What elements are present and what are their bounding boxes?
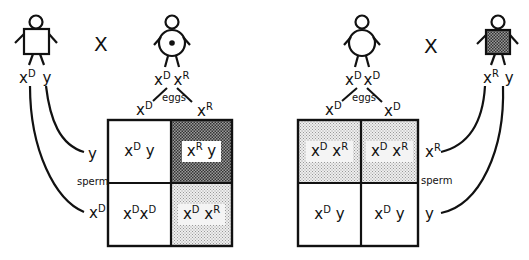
right-cell-r1c2-carrier-daughter: xD xR [361,120,418,183]
right-eggs-label: eggs [352,93,376,103]
right-mother-genotype: xDxD [345,73,380,88]
left-sperm-label: sperm [77,177,108,187]
left-father-male-symbol [15,16,57,66]
right-cross-symbol: X [424,36,438,56]
left-cell-r1c2-affected-son: xR y [171,120,232,183]
x-linked-inheritance-diagram: X X xD y xDxR eggs xD xR y sperm xD xD y… [0,0,529,260]
right-sperm-label: sperm [421,176,452,186]
diagram-artwork [0,0,529,260]
left-egg-1: xD [136,103,153,118]
right-father-affected-symbol [477,16,518,66]
left-father-genotype: xD y [19,71,51,86]
left-sperm-2: xD [89,206,106,221]
right-sperm-curves [441,86,503,213]
left-sperm-1: y [88,147,97,162]
right-egg-2: xD [384,104,401,119]
right-egg-1: xD [325,103,342,118]
left-cell-r1c1: xD y [108,120,171,183]
left-cell-r2c2-carrier-daughter: xD xR [171,183,232,246]
right-cell-r2c2: xD y [361,183,418,246]
right-mother-female-symbol [344,16,380,68]
right-father-genotype: xR y [483,71,514,86]
right-cell-r2c1: xD y [298,183,361,246]
left-mother-carrier-symbol [154,16,190,68]
left-egg-2: xR [197,104,213,119]
left-eggs-label: eggs [162,93,186,103]
right-sperm-1: xR [425,145,441,160]
left-sperm-curves [30,86,84,212]
left-cross-symbol: X [94,34,108,54]
right-cell-r1c1-carrier-daughter: xD xR [298,120,361,183]
right-sperm-2: y [425,207,434,222]
left-mother-genotype: xDxR [154,73,189,88]
left-cell-r2c1: xDxD [108,183,171,246]
